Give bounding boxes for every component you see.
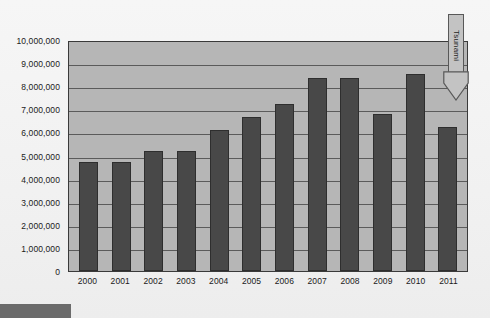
- bar-slot: [72, 42, 105, 271]
- bar-slot: [105, 42, 138, 271]
- down-arrow-icon: [443, 71, 469, 101]
- y-axis-tick-label: 3,000,000: [21, 198, 60, 208]
- bar-2010[interactable]: [406, 74, 425, 272]
- tsunami-annotation-arrow: Tsunami: [443, 14, 469, 104]
- bar-2001[interactable]: [112, 162, 131, 271]
- chart-screenshot: 01,000,0002,000,0003,000,0004,000,0005,0…: [0, 0, 490, 318]
- bar-2002[interactable]: [144, 151, 163, 271]
- y-axis-tick-label: 4,000,000: [21, 175, 60, 185]
- bar-slot: [366, 42, 399, 271]
- bar-slot: [235, 42, 268, 271]
- y-axis-tick-label: 7,000,000: [21, 105, 60, 115]
- x-axis-tick-label: 2003: [169, 276, 202, 286]
- x-axis-tick-label: 2001: [104, 276, 137, 286]
- x-axis-tick-label: 2008: [334, 276, 367, 286]
- bar-chart-figure: 01,000,0002,000,0003,000,0004,000,0005,0…: [0, 0, 490, 318]
- x-axis-tick-label: 2010: [399, 276, 432, 286]
- bar-2004[interactable]: [210, 130, 229, 271]
- bar-2009[interactable]: [373, 114, 392, 271]
- y-axis-tick-label: 0: [55, 267, 60, 277]
- y-axis-tick-label: 8,000,000: [21, 82, 60, 92]
- x-axis-labels: 2000200120022003200420052006200720082009…: [68, 276, 468, 286]
- bar-2011[interactable]: [438, 127, 457, 271]
- bars-layer: [69, 42, 467, 271]
- bar-slot: [203, 42, 236, 271]
- x-axis-tick-label: 2002: [137, 276, 170, 286]
- bar-2003[interactable]: [177, 151, 196, 271]
- y-axis-tick-label: 9,000,000: [21, 59, 60, 69]
- x-axis-tick-label: 2009: [366, 276, 399, 286]
- x-axis-tick-label: 2005: [235, 276, 268, 286]
- bar-slot: [137, 42, 170, 271]
- bar-slot: [301, 42, 334, 271]
- footer-strip: [0, 304, 71, 318]
- y-axis-tick-label: 1,000,000: [21, 244, 60, 254]
- x-axis-tick-label: 2004: [202, 276, 235, 286]
- y-axis-tick-label: 2,000,000: [21, 221, 60, 231]
- x-axis-tick-label: 2011: [432, 276, 465, 286]
- bar-slot: [333, 42, 366, 271]
- y-axis-tick-label: 6,000,000: [21, 128, 60, 138]
- bar-slot: [268, 42, 301, 271]
- x-axis-tick-label: 2006: [268, 276, 301, 286]
- bar-2006[interactable]: [275, 104, 294, 271]
- arrow-shaft: [448, 14, 464, 72]
- bar-2000[interactable]: [79, 162, 98, 271]
- y-axis-tick-label: 10,000,000: [16, 36, 60, 46]
- bar-2007[interactable]: [308, 78, 327, 271]
- bar-slot: [399, 42, 432, 271]
- y-axis-labels: 01,000,0002,000,0003,000,0004,000,0005,0…: [0, 41, 64, 272]
- bar-2008[interactable]: [340, 78, 359, 271]
- x-axis-tick-label: 2000: [71, 276, 104, 286]
- bar-slot: [170, 42, 203, 271]
- y-axis-tick-label: 5,000,000: [21, 152, 60, 162]
- plot-area: [68, 41, 468, 272]
- x-axis-tick-label: 2007: [301, 276, 334, 286]
- bar-2005[interactable]: [242, 117, 261, 271]
